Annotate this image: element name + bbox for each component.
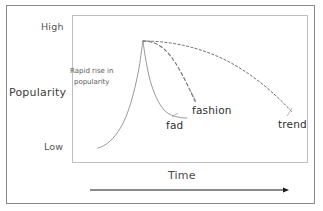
y-axis-tick-high: High: [41, 21, 64, 32]
leader-line-fashion: [189, 88, 196, 101]
curve-label-trend: trend: [278, 118, 307, 130]
y-axis-tick-low: Low: [44, 141, 63, 152]
x-axis-title: Time: [168, 169, 196, 182]
right-arrow-icon: [90, 187, 289, 192]
curve-label-fashion: fashion: [192, 104, 232, 116]
curve-label-fad: fad: [166, 119, 183, 131]
curve-fashion: [143, 41, 196, 103]
annotation-rapid-rise: Rapid rise in popularity: [70, 66, 113, 87]
curve-trend: [143, 41, 292, 112]
y-axis-title: Popularity: [9, 86, 66, 99]
figure-container: High Low Popularity Time Rapid rise in p…: [0, 0, 323, 211]
annotation-rapid-rise-line2: popularity: [70, 77, 113, 88]
annotation-rapid-rise-line1: Rapid rise in: [70, 66, 113, 77]
curve-fad: [98, 41, 187, 148]
leader-line-trend: [287, 108, 292, 116]
